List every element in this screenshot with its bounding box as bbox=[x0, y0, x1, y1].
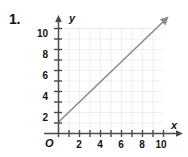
y-tick-label-8: 8 bbox=[28, 50, 48, 60]
origin-label: O bbox=[45, 138, 54, 149]
y-tick-label-10: 10 bbox=[28, 29, 48, 39]
graph-figure: 1. bbox=[0, 0, 188, 157]
y-axis-label: y bbox=[69, 13, 75, 24]
x-axis-label: x bbox=[171, 120, 177, 131]
y-tick-label-2: 2 bbox=[28, 113, 48, 123]
y-tick-label-6: 6 bbox=[28, 71, 48, 81]
x-tick-label-4: 4 bbox=[92, 140, 108, 150]
y-tick-label-4: 4 bbox=[28, 92, 48, 102]
x-tick-label-8: 8 bbox=[134, 140, 150, 150]
x-tick-label-2: 2 bbox=[71, 140, 87, 150]
x-tick-label-6: 6 bbox=[113, 140, 129, 150]
x-tick-label-10: 10 bbox=[153, 140, 169, 150]
